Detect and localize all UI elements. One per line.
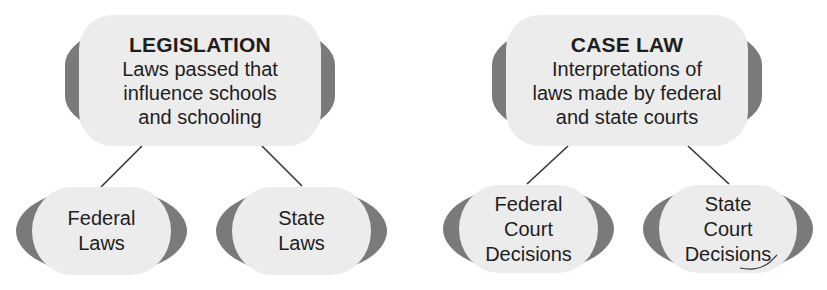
state-laws-line-2: Laws: [278, 231, 325, 256]
federal-court-decisions-line-2: Court: [504, 217, 553, 242]
connector-legislation-state: [262, 146, 302, 186]
connector-legislation-federal: [101, 146, 142, 187]
legislation-node-body: LEGISLATION Laws passed that influence s…: [79, 15, 321, 146]
legislation-desc-line-3: and schooling: [138, 105, 261, 129]
state-laws-node-body: State Laws: [232, 187, 371, 275]
case-law-node-body: CASE LAW Interpretations of laws made by…: [506, 15, 748, 146]
case-law-desc-line-1: Interpretations of: [552, 57, 702, 81]
state-court-decisions-node: State Court Decisions: [643, 185, 813, 273]
state-laws-node: State Laws: [216, 187, 387, 275]
legislation-title: LEGISLATION: [129, 32, 271, 57]
federal-laws-line-1: Federal: [68, 206, 136, 231]
federal-laws-line-2: Laws: [78, 231, 125, 256]
state-court-decisions-line-2: Court: [704, 217, 753, 242]
legislation-node: LEGISLATION Laws passed that influence s…: [65, 15, 335, 146]
federal-court-decisions-node-body: Federal Court Decisions: [459, 185, 598, 273]
state-court-decisions-node-body: State Court Decisions: [659, 185, 797, 273]
connector-caselaw-federal: [527, 146, 568, 184]
federal-laws-node: Federal Laws: [16, 187, 187, 275]
case-law-desc-line-3: and state courts: [556, 105, 698, 129]
case-law-node: CASE LAW Interpretations of laws made by…: [492, 15, 762, 146]
legislation-desc-line-2: influence schools: [123, 81, 276, 105]
federal-court-decisions-line-3: Decisions: [485, 242, 572, 267]
federal-laws-node-body: Federal Laws: [32, 187, 171, 275]
federal-court-decisions-line-1: Federal: [495, 192, 563, 217]
connector-caselaw-state: [688, 146, 729, 184]
case-law-title: CASE LAW: [571, 32, 683, 57]
state-court-decisions-line-1: State: [705, 192, 752, 217]
state-laws-line-1: State: [278, 206, 325, 231]
case-law-desc-line-2: laws made by federal: [533, 81, 722, 105]
federal-court-decisions-node: Federal Court Decisions: [443, 185, 614, 273]
legislation-desc-line-1: Laws passed that: [122, 57, 278, 81]
state-court-decisions-line-3: Decisions: [685, 242, 772, 267]
